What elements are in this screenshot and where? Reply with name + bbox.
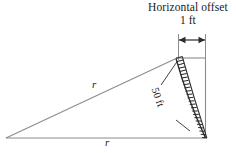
radius-line-upper bbox=[6, 59, 176, 139]
diagram-canvas bbox=[0, 0, 236, 153]
dimension-arrowhead-right bbox=[199, 37, 206, 43]
radius-label-lower: r bbox=[105, 136, 109, 148]
arc-hatch-marks bbox=[176, 57, 207, 139]
horizontal-offset-value: 1 ft bbox=[180, 14, 196, 26]
dimension-arrowhead-left bbox=[179, 37, 186, 43]
radius-label-upper: r bbox=[92, 78, 96, 90]
dimension-horizontal-offset bbox=[179, 34, 206, 60]
hatched-arc bbox=[176, 57, 207, 139]
offset-arc-diagram: Horizontal offset 1 ft r r 50 ft bbox=[0, 0, 236, 153]
arc-length-leader bbox=[161, 61, 190, 131]
horizontal-offset-title: Horizontal offset bbox=[148, 1, 228, 13]
arc-inner-curve bbox=[176, 59, 206, 139]
arc-outer-curve bbox=[182, 57, 207, 139]
leader-line-lower bbox=[176, 120, 190, 131]
wedge-radii bbox=[6, 59, 205, 139]
